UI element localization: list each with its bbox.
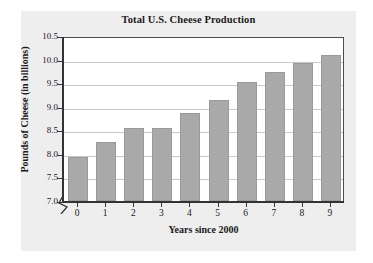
x-axis-tick-mark	[189, 203, 190, 207]
bar	[321, 55, 341, 201]
x-axis-tick-mark	[330, 203, 331, 207]
bar	[68, 157, 88, 201]
plot-area	[63, 37, 344, 202]
x-axis-tick-label: 3	[146, 208, 176, 218]
x-axis-tick-label: 5	[203, 208, 233, 218]
y-axis-tick-mark	[57, 37, 62, 38]
x-axis-tick-label: 6	[231, 208, 261, 218]
y-axis-tick-mark	[57, 61, 62, 62]
y-axis-tick-label: 7.5	[47, 172, 58, 182]
x-axis-tick-mark	[218, 203, 219, 207]
x-axis-tick-mark	[274, 203, 275, 207]
bar	[237, 82, 257, 201]
x-axis-tick-label: 8	[287, 208, 317, 218]
bar	[96, 142, 116, 201]
y-axis-tick-label: 8.0	[47, 149, 58, 159]
bar	[265, 72, 285, 201]
y-axis-tick-mark	[57, 108, 62, 109]
x-axis-tick-label: 2	[118, 208, 148, 218]
x-axis-tick-label: 9	[315, 208, 345, 218]
x-axis-tick-label: 1	[90, 208, 120, 218]
x-axis-tick-mark	[133, 203, 134, 207]
x-axis-tick-mark	[105, 203, 106, 207]
x-axis-tick-mark	[302, 203, 303, 207]
x-axis-tick-mark	[77, 203, 78, 207]
x-axis-tick-label: 7	[259, 208, 289, 218]
x-axis-tick-mark	[246, 203, 247, 207]
y-axis-tick-label: 9.0	[47, 102, 58, 112]
bar	[152, 128, 172, 201]
chart-title: Total U.S. Cheese Production	[21, 14, 356, 25]
y-axis-tick-label: 10.0	[42, 55, 58, 65]
x-axis-tick-label: 4	[174, 208, 204, 218]
y-axis-tick-mark	[57, 131, 62, 132]
y-axis-title: Pounds of Cheese (in billions)	[19, 35, 30, 185]
x-axis-title: Years since 2000	[63, 224, 344, 235]
chart-figure: Total U.S. Cheese Production 7.07.58.08.…	[0, 0, 373, 263]
bar	[124, 128, 144, 201]
x-axis-tick-mark	[161, 203, 162, 207]
y-axis-line	[62, 37, 64, 202]
bar	[293, 63, 313, 201]
y-axis-tick-label: 9.5	[47, 78, 58, 88]
x-axis-tick-label: 0	[62, 208, 92, 218]
y-axis-tick-label: 8.5	[47, 125, 58, 135]
y-axis-tick-mark	[57, 155, 62, 156]
bar	[209, 100, 229, 201]
bar	[180, 113, 200, 201]
bar-series	[64, 38, 343, 201]
y-axis-tick-mark	[57, 178, 62, 179]
y-axis-tick-mark	[57, 84, 62, 85]
y-axis-tick-label: 10.5	[42, 31, 58, 41]
